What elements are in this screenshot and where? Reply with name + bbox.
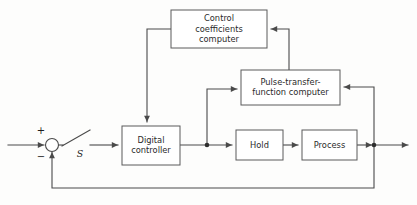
arrow-head: [38, 142, 44, 148]
block-diagram-canvas: ControlcoefficientscomputerPulse-transfe…: [0, 0, 417, 205]
control-coeff-down-to-controller: [147, 29, 171, 122]
minus-sign-label: −: [37, 151, 45, 162]
node-up-to-pulse-computer: [207, 89, 237, 145]
node-layer: + − S: [37, 125, 84, 162]
digital-controller-label-line-0: Digital: [138, 135, 165, 145]
summing-junction: [46, 139, 59, 152]
switch-label-s: S: [77, 148, 84, 159]
arrow-head: [49, 152, 55, 158]
switch-blade: [62, 130, 90, 146]
arrow-head: [226, 142, 232, 148]
block-pulse-transfer-function-computer: Pulse-transfer-function computer: [241, 70, 340, 105]
arrow-head: [292, 142, 298, 148]
plus-sign-label: +: [37, 125, 45, 136]
arrow-head: [366, 142, 372, 148]
arrow-head: [144, 116, 150, 122]
pulse-up-to-control-coeff: [271, 29, 289, 70]
process-label-line-0: Process: [314, 140, 345, 150]
arrow-head: [402, 142, 408, 148]
pulse-transfer-function-computer-label-line-1: function computer: [252, 87, 329, 97]
controller-output-node: [205, 143, 210, 148]
arrow-head: [344, 84, 350, 90]
block-layer: ControlcoefficientscomputerPulse-transfe…: [122, 10, 357, 165]
control-coefficients-computer-label-line-1: coefficients: [195, 24, 243, 34]
pulse-transfer-function-computer-label-line-0: Pulse-transfer-: [260, 77, 320, 87]
process-output-node: [372, 143, 377, 148]
block-digital-controller: Digitalcontroller: [122, 126, 180, 165]
digital-controller-label-line-1: controller: [131, 145, 171, 155]
wire-layer: [8, 26, 408, 188]
control-coefficients-computer-label-line-2: computer: [199, 34, 240, 44]
hold-label-line-0: Hold: [250, 140, 269, 150]
block-control-coefficients-computer: Controlcoefficientscomputer: [171, 10, 267, 48]
arrow-head: [112, 142, 118, 148]
control-coefficients-computer-label-line-0: Control: [204, 13, 234, 23]
block-process: Process: [302, 130, 357, 160]
block-hold: Hold: [236, 130, 283, 160]
control-system-diagram: ControlcoefficientscomputerPulse-transfe…: [0, 0, 417, 205]
arrow-head: [231, 86, 237, 92]
arrow-head: [271, 26, 277, 32]
